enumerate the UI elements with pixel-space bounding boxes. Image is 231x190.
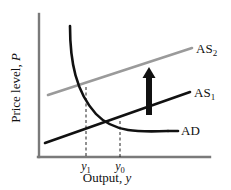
- curve-as2: [48, 48, 192, 95]
- x-axis-title: Output, y: [83, 170, 132, 185]
- curve-label-ad: AD: [181, 123, 200, 138]
- curve-label-as2: AS2: [196, 41, 217, 58]
- shift-arrow-shaft: [146, 77, 152, 115]
- diagram-canvas: AS2 AS1 AD y1 y0 Output, y Price level, …: [0, 0, 231, 190]
- ad-as-diagram: AS2 AS1 AD y1 y0 Output, y Price level, …: [0, 0, 231, 190]
- y-axis-title: Price level, P: [8, 53, 23, 123]
- curve-label-as1: AS1: [194, 85, 215, 102]
- curve-as1: [45, 92, 190, 143]
- shift-arrow-head: [143, 67, 156, 78]
